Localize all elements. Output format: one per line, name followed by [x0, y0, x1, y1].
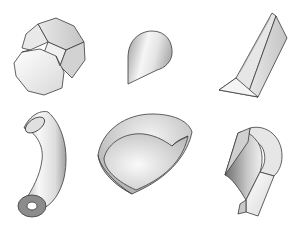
hollow-shell-shape — [98, 114, 192, 194]
triangular-prism-shape — [219, 13, 287, 97]
bent-tube-shape — [18, 112, 66, 217]
cone-shape — [128, 31, 172, 84]
solids-figure — [0, 0, 297, 225]
cutaway-cylinder-shape — [225, 127, 282, 216]
octagonal-prism-shape — [14, 18, 85, 95]
